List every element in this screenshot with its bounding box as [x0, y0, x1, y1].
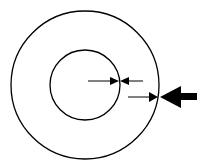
- outer-left-thick-arrow: [160, 86, 197, 108]
- outer-circle: [11, 11, 159, 159]
- outer-right-arrow: [128, 92, 158, 102]
- inner-circle: [50, 50, 120, 120]
- inner-left-arrow: [120, 77, 143, 85]
- inner-right-arrow: [88, 77, 119, 85]
- concentric-circles-diagram: [0, 0, 210, 163]
